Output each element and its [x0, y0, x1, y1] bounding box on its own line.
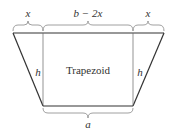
brace-right	[133, 21, 164, 31]
brace-bottom	[43, 108, 133, 118]
brace-left	[13, 21, 43, 31]
label-bottom: a	[85, 118, 91, 130]
label-top-right: x	[145, 7, 151, 19]
top-braces	[13, 21, 164, 31]
label-top-left: x	[25, 7, 31, 19]
brace-middle	[43, 21, 133, 31]
label-left-height: h	[35, 66, 41, 78]
trapezoid-diagram: x b − 2x x h h Trapezoid a	[0, 0, 172, 137]
label-right-height: h	[137, 66, 143, 78]
shape-title: Trapezoid	[66, 64, 111, 76]
label-top-middle: b − 2x	[74, 7, 103, 19]
